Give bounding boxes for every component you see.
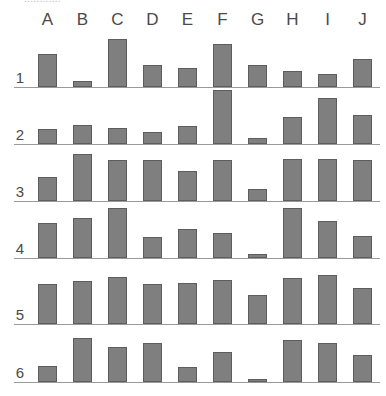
category-label-e: E [174,9,202,31]
bar-row5-c [108,277,127,324]
row-panel-5: 5 [0,268,386,325]
row-panel-2: 2 [0,88,386,145]
bar-row1-c [108,39,127,87]
bar-row6-h [283,340,302,382]
bar-row4-f [213,233,232,258]
bar-row3-j [353,160,372,201]
bar-row5-f [213,280,232,324]
category-label-b: B [69,9,97,31]
category-label-c: C [104,9,132,31]
bar-row4-j [353,236,372,258]
row-label-2: 2 [10,126,30,143]
plot-area-row-3 [30,145,380,201]
bar-row6-c [108,347,127,382]
bar-row2-i [318,98,337,144]
bar-row1-g [248,65,267,87]
category-label-f: F [209,9,237,31]
row-panel-3: 3 [0,145,386,202]
plot-area-row-2 [30,88,380,144]
category-label-d: D [139,9,167,31]
category-label-g: G [244,9,272,31]
bar-row6-j [353,355,372,382]
baseline-axis-row-5 [14,324,380,325]
bar-row4-g [248,254,267,258]
bar-row1-e [178,68,197,87]
bar-row3-a [38,177,57,201]
bar-row4-d [143,237,162,258]
baseline-axis-row-6 [14,382,380,383]
clipped-caption-text: ............ [24,0,61,4]
bar-row4-b [73,218,92,258]
category-label-a: A [34,9,62,31]
bar-row5-d [143,284,162,324]
plot-area-row-4 [30,202,380,258]
bar-row4-a [38,223,57,258]
bar-row3-e [178,171,197,201]
bar-row1-j [353,59,372,87]
bar-row2-a [38,129,57,144]
row-panel-6: 6 [0,326,386,383]
bar-row3-h [283,159,302,201]
bar-row1-i [318,74,337,87]
bar-row2-c [108,128,127,144]
row-label-3: 3 [10,183,30,200]
bar-row1-a [38,54,57,87]
bar-row3-g [248,189,267,201]
bar-row2-e [178,126,197,144]
bar-row6-g [248,379,267,382]
bar-row3-d [143,160,162,201]
row-label-1: 1 [10,69,30,86]
bar-row6-i [318,343,337,382]
bar-row5-a [38,284,57,324]
bar-row4-e [178,229,197,258]
bar-row2-h [283,117,302,144]
bar-row1-b [73,81,92,87]
bar-row5-h [283,278,302,324]
bar-row3-f [213,160,232,201]
bar-row4-c [108,208,127,258]
baseline-axis-row-4 [14,258,380,259]
bar-row4-i [318,221,337,258]
bar-row4-h [283,208,302,258]
row-panel-1: 1 [0,31,386,88]
row-label-6: 6 [10,364,30,381]
row-label-5: 5 [10,306,30,323]
bar-row2-j [353,115,372,144]
bar-row1-f [213,44,232,87]
bar-row6-b [73,338,92,382]
category-label-j: J [349,9,377,31]
bar-row1-h [283,71,302,87]
bar-chart-figure: ............ ABCDEFGHIJ 123456 [0,0,386,396]
category-label-i: I [314,9,342,31]
row-label-4: 4 [10,240,30,257]
bar-row5-i [318,275,337,324]
category-axis-header: ABCDEFGHIJ [30,9,380,33]
bar-row3-c [108,160,127,201]
bar-row2-b [73,125,92,144]
plot-area-row-6 [30,326,380,382]
clipped-caption-strip: ............ [0,0,386,9]
plot-area-row-5 [30,268,380,324]
plot-area-row-1 [30,31,380,87]
bar-row6-f [213,352,232,382]
bar-row6-d [143,343,162,382]
bar-row2-f [213,90,232,144]
bar-row6-a [38,366,57,382]
bar-row5-b [73,281,92,324]
category-label-h: H [279,9,307,31]
bar-row3-b [73,154,92,201]
bar-row5-e [178,283,197,324]
row-panel-4: 4 [0,202,386,259]
bar-row6-e [178,367,197,382]
bar-row1-d [143,65,162,87]
bar-row3-i [318,159,337,201]
bar-row2-d [143,132,162,144]
bar-row2-g [248,138,267,144]
bar-row5-g [248,295,267,324]
bar-row5-j [353,288,372,324]
